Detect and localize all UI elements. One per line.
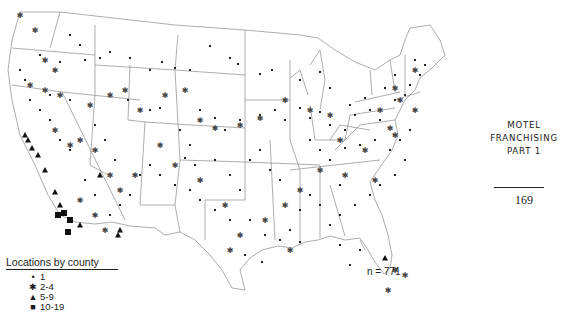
- dot-icon: [244, 254, 246, 256]
- legend-item-10-19: ■ 10-19: [26, 302, 118, 312]
- asterisk-icon: ✱: [237, 231, 244, 240]
- dot-icon: [109, 214, 111, 216]
- asterisk-icon: ✱: [262, 216, 269, 225]
- dot-icon: [189, 69, 191, 71]
- dot-icon: [319, 111, 321, 113]
- dot-icon: [49, 94, 51, 96]
- dot-icon: [174, 184, 176, 186]
- asterisk-icon: ✱: [137, 106, 144, 115]
- dot-icon: [174, 67, 176, 69]
- dot-icon: [339, 184, 341, 186]
- dot-icon: [189, 144, 191, 146]
- dot-icon: [249, 219, 251, 221]
- dot-icon: [394, 74, 396, 76]
- asterisk-icon: ✱: [42, 56, 49, 65]
- dot-icon: [379, 119, 381, 121]
- dot-icon: [344, 129, 346, 131]
- asterisk-icon: ✱: [182, 86, 189, 95]
- dot-icon: [119, 204, 121, 206]
- triangle-icon: [382, 255, 388, 261]
- dot-icon: [384, 87, 386, 89]
- asterisk-icon: ✱: [197, 116, 204, 125]
- dot-icon: [127, 99, 129, 101]
- dot-icon: [199, 199, 201, 201]
- dot-icon: [399, 139, 401, 141]
- chapter-title-line: FRANCHISING: [480, 132, 568, 145]
- asterisk-icon: ✱: [77, 196, 84, 205]
- chapter-title-line: MOTEL: [480, 119, 568, 132]
- dot-icon: [199, 109, 201, 111]
- dot-icon: [59, 139, 61, 141]
- dot-icon: [264, 234, 266, 236]
- dot-icon: [259, 149, 261, 151]
- triangle-icon: [42, 167, 48, 173]
- asterisk-icon: ✱: [337, 136, 344, 145]
- dot-icon: [349, 104, 351, 106]
- dot-icon: [109, 51, 111, 53]
- dot-icon: [69, 99, 71, 101]
- dot-icon: •: [26, 272, 40, 282]
- dot-icon: [114, 159, 116, 161]
- dot-icon: [39, 109, 41, 111]
- dot-icon: [249, 159, 251, 161]
- triangle-icon: ▲: [26, 292, 40, 302]
- asterisk-icon: ✱: [397, 96, 404, 105]
- asterisk-icon: ✱: [227, 246, 234, 255]
- dot-icon: [189, 189, 191, 191]
- chapter-title: MOTEL FRANCHISING PART 1: [480, 119, 568, 158]
- dot-icon: [414, 59, 416, 61]
- map-legend: Locations by county • 1 ✱ 2-4 ▲ 5-9 ■ 10…: [6, 256, 118, 312]
- dot-icon: [404, 94, 406, 96]
- asterisk-icon: ✱: [92, 211, 99, 220]
- dot-icon: [94, 194, 96, 196]
- dot-icon: [374, 139, 376, 141]
- asterisk-icon: ✱: [172, 161, 179, 170]
- dot-icon: [159, 174, 161, 176]
- dot-icon: [329, 159, 331, 161]
- dot-icon: [129, 57, 131, 59]
- dot-icon: [19, 69, 21, 71]
- dot-icon: [79, 44, 81, 46]
- dot-icon: [179, 129, 181, 131]
- asterisk-icon: ✱: [297, 186, 304, 195]
- dot-icon: [269, 169, 271, 171]
- dot-icon: [184, 157, 186, 159]
- dot-icon: [354, 114, 356, 116]
- asterisk-icon: ✱: [287, 246, 294, 255]
- asterisk-icon: ✱: [17, 11, 24, 20]
- asterisk-icon: ✱: [102, 226, 109, 235]
- asterisk-icon: ✱: [402, 271, 409, 280]
- dot-icon: [239, 189, 241, 191]
- asterisk-icon: ✱: [57, 91, 64, 100]
- dot-icon: [279, 239, 281, 241]
- dot-icon: [261, 261, 263, 263]
- asterisk-icon: ✱: [32, 26, 39, 35]
- asterisk-icon: ✱: [107, 91, 114, 100]
- dot-icon: [84, 59, 86, 61]
- triangle-icon: [117, 227, 123, 233]
- asterisk-icon: ✱: [132, 171, 139, 180]
- dot-icon: [339, 244, 341, 246]
- dot-icon: [159, 107, 161, 109]
- dot-icon: [104, 139, 106, 141]
- asterisk-icon: ✱: [412, 66, 419, 75]
- square-icon: [55, 212, 61, 218]
- dot-icon: [289, 229, 291, 231]
- triangle-icon: [115, 232, 121, 238]
- asterisk-icon: ✱: [27, 81, 34, 90]
- dot-icon: [237, 63, 239, 65]
- asterisk-icon: ✱: [387, 124, 394, 133]
- sample-size-label: n = 771: [367, 266, 401, 277]
- asterisk-icon: ✱: [117, 186, 124, 195]
- dot-icon: [224, 129, 226, 131]
- dot-icon: [99, 57, 101, 59]
- dot-icon: [319, 149, 321, 151]
- dot-icon: [404, 159, 406, 161]
- asterisk-icon: ✱: [237, 121, 244, 130]
- dot-icon: [344, 147, 346, 149]
- dot-icon: [259, 73, 261, 75]
- dot-icon: [214, 117, 216, 119]
- dot-icon: [424, 64, 426, 66]
- asterisk-icon: ✱: [157, 141, 164, 150]
- asterisk-icon: ✱: [42, 86, 49, 95]
